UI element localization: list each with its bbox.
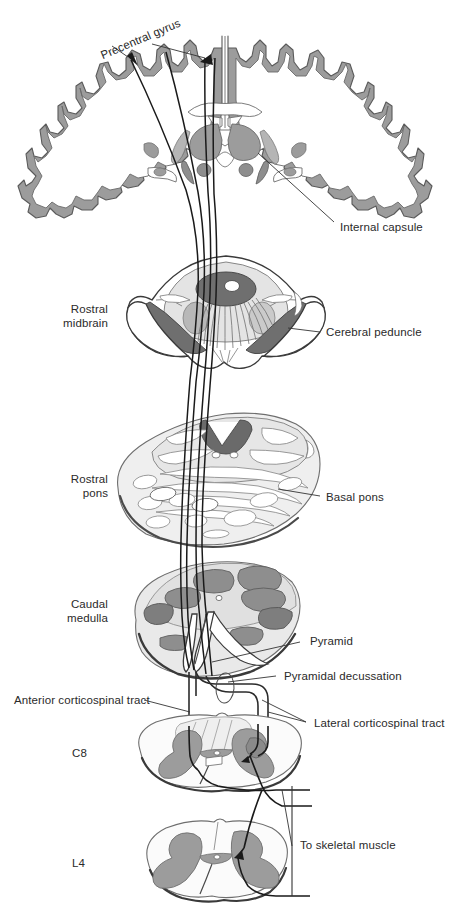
label-lateral-corticospinal-tract: Lateral corticospinal tract [314,716,445,730]
label-caudal-medulla-line2: medulla [67,612,108,624]
left-lateral-funiculus-gray [144,603,173,624]
corpus-callosum [188,103,262,117]
cerebral-hemispheres-section [18,36,432,218]
figure-page: Precentral gyrus Internal capsule Rostra… [0,0,452,917]
c8-spinal-cord-section [139,713,302,791]
label-rostral-pons-line1: Rostral [71,473,108,485]
label-rostral-midbrain-line1: Rostral [71,303,108,315]
leader-to-skeletal-muscle [282,790,292,846]
rostral-pons-section [118,413,320,547]
c8-ventral-white-commissure [206,756,222,766]
label-caudal-medulla-line1: Caudal [71,598,108,610]
label-c8: C8 [72,746,87,760]
l4-central-canal [214,855,220,859]
label-rostral-midbrain: Rostral midbrain [22,302,108,330]
label-rostral-midbrain-line2: midbrain [63,317,108,329]
label-cerebral-peduncle: Cerebral peduncle [326,325,422,339]
leader-anterior-cst [144,700,190,712]
label-internal-capsule: Internal capsule [340,220,423,234]
label-caudal-medulla: Caudal medulla [22,597,108,625]
left-hippocampus [154,168,166,176]
right-raphe-nucleus [230,452,238,458]
left-gracile-nucleus [193,569,234,593]
label-basal-pons: Basal pons [326,490,384,504]
left-subthalamic-nucleus [197,164,211,177]
label-to-skeletal-muscle: To skeletal muscle [300,838,396,852]
label-pyramidal-decussation: Pyramidal decussation [284,669,402,683]
c8-central-canal [214,751,220,755]
l4-spinal-cord-section [147,819,288,902]
label-rostral-pons: Rostral pons [22,472,108,500]
label-rostral-pons-line2: pons [83,487,108,499]
corticospinal-tract-diagram [0,0,452,917]
left-raphe-nucleus [212,452,220,458]
label-l4: L4 [72,856,85,870]
central-canal-medulla [216,595,222,600]
right-subthalamic-nucleus [239,164,253,177]
right-hippocampus [284,168,296,176]
label-pyramid: Pyramid [310,634,353,648]
rostral-midbrain-section [127,256,326,368]
label-anterior-corticospinal-tract: Anterior corticospinal tract [14,693,150,707]
cerebral-aqueduct [225,281,240,292]
